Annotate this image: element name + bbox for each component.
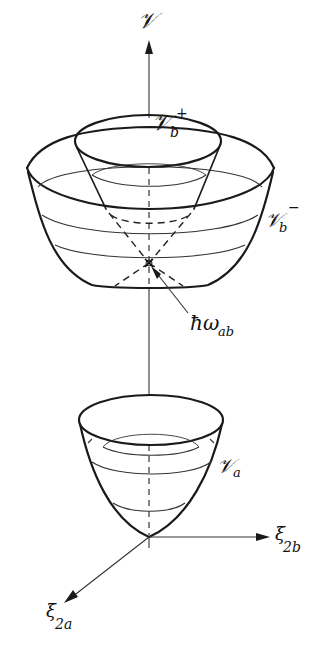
intersection-pointer [151,266,188,313]
vertical-axis-arrowhead [145,40,153,54]
x-axis [149,533,270,541]
z-axis [64,537,149,603]
lower-bowl-label: 𝒱 a [217,454,241,480]
svg-text:2b: 2b [282,539,301,555]
intersection-label: ħω ab [190,311,234,339]
svg-text:b: b [279,220,287,235]
svg-text:+: + [176,105,188,121]
vertical-axis-label: 𝒱 [138,8,163,33]
x-axis-arrowhead [256,533,270,541]
z-axis-label: ξ 2a [46,600,72,632]
svg-text:−: − [288,199,300,215]
conical-intersection-diagram: 𝒱 [0,0,325,645]
upper-cone-label: 𝒱 b + [152,105,188,140]
x-axis-label: ξ 2b [275,523,301,555]
lower-bowl-surface [79,395,223,537]
svg-text:ab: ab [218,324,234,339]
z-axis-arrowhead [64,590,78,603]
svg-text:ħω: ħω [190,311,219,335]
intersection-point [145,259,153,267]
svg-text:b: b [170,124,179,140]
svg-text:2a: 2a [54,616,72,632]
outer-bowl-label: 𝒱 b − [265,199,300,235]
upper-cone-surface [75,115,221,263]
svg-text:a: a [233,465,241,480]
